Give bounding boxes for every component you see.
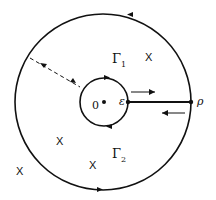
- pole-marker: X: [56, 136, 63, 147]
- gamma2-label: Γ2: [112, 147, 126, 164]
- rho-label: ρ: [197, 96, 203, 107]
- outer-top-arrow-icon: [127, 12, 133, 17]
- pole-marker: X: [16, 166, 23, 177]
- epsilon-label: ε: [119, 96, 125, 107]
- contour-diagram: [0, 0, 216, 200]
- pole-marker: X: [89, 160, 96, 171]
- origin-dot: [102, 100, 106, 104]
- radius-arrow-outer-icon: [40, 63, 47, 68]
- outer-bottom-arrow-icon: [97, 187, 103, 192]
- origin-label: 0: [92, 100, 99, 111]
- epsilon-dot: [126, 100, 130, 104]
- radius-arrow-inner-icon: [70, 78, 76, 83]
- radius-dashed-line: [30, 58, 80, 87]
- gamma1-label: Γ1: [112, 52, 126, 69]
- pole-marker: X: [145, 52, 152, 63]
- rho-dot: [189, 100, 193, 104]
